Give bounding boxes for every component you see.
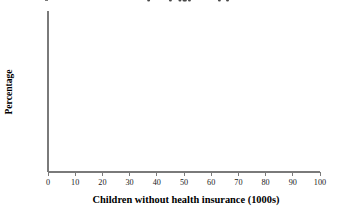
- data-point: [226, 0, 229, 2]
- x-tick-label: 50: [180, 178, 188, 187]
- data-point: [218, 0, 221, 2]
- x-tick-label: 70: [234, 178, 242, 187]
- data-point: [147, 0, 150, 2]
- x-tick-label: 30: [126, 178, 134, 187]
- x-tick-label: 0: [46, 178, 50, 187]
- y-axis-title: Percentage: [3, 69, 14, 115]
- x-tick-label: 10: [71, 178, 79, 187]
- x-tick-label: 60: [207, 178, 215, 187]
- y-tick-label: 100: [30, 0, 42, 2]
- chart-figure: 1510203040506070809095100010203040506070…: [0, 0, 338, 212]
- probability-plot: 1510203040506070809095100010203040506070…: [0, 0, 338, 212]
- x-tick-label: 100: [314, 178, 326, 187]
- axes: [45, 0, 321, 176]
- data-point: [169, 0, 172, 2]
- data-points: [147, 0, 229, 2]
- x-tick-label: 40: [153, 178, 161, 187]
- x-axis-title: Children without health insurance (1000s…: [93, 194, 280, 206]
- data-point: [188, 0, 191, 2]
- x-tick-label: 90: [289, 178, 297, 187]
- x-tick-label: 80: [262, 178, 270, 187]
- data-point: [178, 0, 181, 2]
- tick-labels: 1510203040506070809095100010203040506070…: [30, 0, 326, 187]
- x-tick-label: 20: [98, 178, 106, 187]
